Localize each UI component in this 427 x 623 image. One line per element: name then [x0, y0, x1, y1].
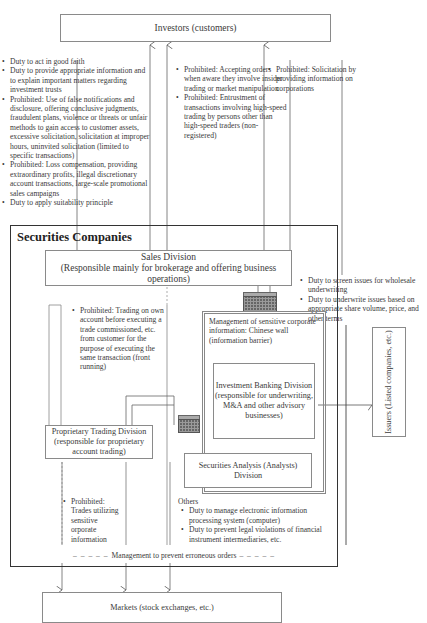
duty-item: Duty to screen issues for wholesale unde… [300, 276, 426, 295]
duty-item: Duty to provide appropriate information … [2, 66, 152, 94]
prohibition-item: Prohibited: Use of false notifications a… [2, 95, 152, 161]
duty-item: Duty to apply suitability principle [2, 198, 152, 207]
prohibition-item: Prohibited: Trades utilizing sensitive o… [63, 497, 123, 544]
proprietary-prohibition: Prohibited: Trades utilizing sensitive o… [63, 497, 123, 544]
firewall-icon [243, 296, 277, 312]
markets-label: Markets (stock exchanges, etc.) [110, 603, 213, 613]
investors-box: Investors (customers) [60, 14, 331, 42]
markets-box: Markets (stock exchanges, etc.) [42, 592, 282, 623]
securities-analysis-box: Securities Analysis (Analysts) Division [184, 453, 312, 488]
duty-item: Duty to prevent legal violations of fina… [181, 525, 338, 544]
others-section: Others Duty to manage electronic informa… [178, 497, 338, 544]
investor-duties-list: Duty to act in good faith Duty to provid… [2, 57, 152, 208]
erroneous-orders-label: Management to prevent erroneous orders [112, 551, 237, 560]
proprietary-trading-label: Proprietary Trading Division (responsibl… [46, 427, 152, 457]
others-title: Others [178, 497, 338, 506]
securities-companies-title: Securities Companies [17, 230, 132, 245]
prohibition-item: Prohibited: Loss compensation, providing… [2, 160, 152, 198]
prohibition-item: Prohibited: Solicitation by providing in… [268, 65, 358, 93]
prohibition-item: Prohibited: Entrustment of transactions … [176, 93, 288, 140]
erroneous-orders-line: – – – – – Management to prevent erroneou… [15, 551, 333, 560]
front-running-prohibition: Prohibited: Trading on own account befor… [72, 306, 164, 372]
firewall-icon [178, 419, 200, 433]
chinese-wall-label: Management of sensitive corporate inform… [209, 317, 321, 345]
prohibition-item: Prohibited: Trading on own account befor… [72, 306, 164, 372]
sales-division-desc: (Responsible mainly for brokerage and of… [46, 263, 291, 285]
investment-banking-label: Investment Banking Division (responsible… [214, 381, 314, 421]
issuers-label: Issuers (Listed companies, etc.) [384, 330, 394, 433]
proprietary-trading-box: Proprietary Trading Division (responsibl… [45, 425, 153, 459]
duty-item: Duty to manage electronic information pr… [181, 506, 338, 525]
securities-analysis-label: Securities Analysis (Analysts) Division [185, 461, 311, 481]
dash-left: – – – – – [73, 551, 109, 560]
investors-label: Investors (customers) [154, 23, 236, 34]
sales-division-name: Sales Division [141, 252, 196, 263]
sales-division-box: Sales Division (Responsible mainly for b… [45, 250, 292, 286]
solicitation-prohibition: Prohibited: Solicitation by providing in… [268, 65, 358, 93]
investment-banking-box: Investment Banking Division (responsible… [213, 363, 315, 439]
duty-item: Duty to act in good faith [2, 57, 152, 66]
issuers-box: Issuers (Listed companies, etc.) [372, 327, 406, 437]
dash-right: – – – – – [239, 551, 275, 560]
